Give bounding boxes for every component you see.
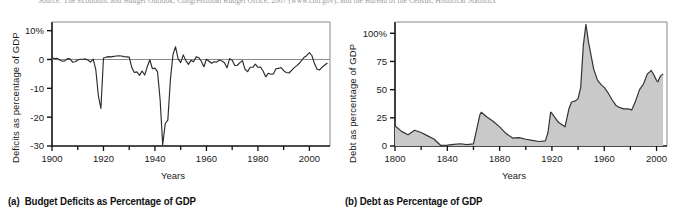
- chart-b-x-axis-title: Years: [502, 170, 526, 181]
- chart-a-y-tick-label: -20: [30, 112, 44, 123]
- chart-b-area-fill: [395, 24, 663, 146]
- chart-b-plot-area: Debt as percentage of GDP 0255075100%180…: [337, 18, 674, 168]
- chart-a-x-tick-label: 1900: [41, 153, 62, 164]
- chart-a-x-axis-title: Years: [161, 170, 185, 181]
- caption-b-label: (b): [345, 195, 357, 207]
- chart-b-x-tick-label: 1880: [489, 153, 510, 164]
- caption-a-text: Budget Deficits as Percentage of GDP: [25, 195, 196, 207]
- chart-a-x-tick-label: 1960: [196, 153, 217, 164]
- chart-b-x-tick-label: 2000: [646, 153, 667, 164]
- chart-b-y-tick-label: 0: [382, 140, 387, 151]
- chart-a-x-tick-label: 1980: [247, 153, 268, 164]
- caption-b-text: Debt as Percentage of GDP: [360, 195, 483, 207]
- chart-a-y-tick-label: 0: [39, 54, 44, 65]
- chart-a-series-line: [52, 47, 327, 145]
- chart-b-y-tick-label: 75: [376, 56, 387, 67]
- chart-a-x-tick-label: 1940: [144, 153, 165, 164]
- chart-b-y-axis-title: Debt as percentage of GDP: [347, 44, 358, 163]
- panel-debt: Debt as percentage of GDP 0255075100%180…: [337, 0, 674, 213]
- chart-b-x-tick-label: 1840: [437, 153, 458, 164]
- chart-b-y-tick-label: 100%: [363, 28, 388, 39]
- chart-a-x-tick-label: 2000: [299, 153, 320, 164]
- chart-a-plot-area: Deficits as percentage of GDP 10%0-10-20…: [0, 18, 337, 168]
- chart-a-y-tick-label: -10: [30, 83, 44, 94]
- chart-a-x-tick-label: 1920: [93, 153, 114, 164]
- chart-b-y-tick-label: 25: [376, 112, 387, 123]
- caption-a-label: (a): [8, 195, 20, 207]
- chart-b-x-tick-label: 1800: [384, 153, 405, 164]
- chart-a-y-axis-title: Deficits as percentage of GDP: [10, 32, 21, 163]
- panel-budget-deficits: Deficits as percentage of GDP 10%0-10-20…: [0, 0, 337, 213]
- chart-a-svg: 10%0-10-20-30190019201940196019802000: [0, 18, 337, 168]
- caption-a: (a) Budget Deficits as Percentage of GDP: [8, 195, 196, 207]
- caption-b: (b) Debt as Percentage of GDP: [345, 195, 482, 207]
- chart-b-svg: 0255075100%180018401880192019602000: [337, 18, 674, 168]
- chart-b-y-tick-label: 50: [376, 84, 387, 95]
- chart-a-y-tick-label: -30: [30, 140, 44, 151]
- chart-b-x-tick-label: 1960: [594, 153, 615, 164]
- chart-a-y-tick-label: 10%: [25, 25, 45, 36]
- chart-b-x-tick-label: 1920: [541, 153, 562, 164]
